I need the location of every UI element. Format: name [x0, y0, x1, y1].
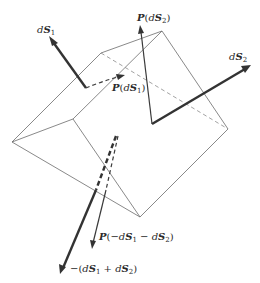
- neg-sum-shaft: [63, 190, 96, 268]
- label-P-neg-sum: P(−dS1 − dS2): [98, 231, 174, 244]
- label-neg-sum: −(dS1 + dS2): [70, 263, 137, 276]
- arrowhead-icon: [116, 74, 125, 80]
- edge-left-bottom: [12, 142, 140, 217]
- dS2-shaft: [152, 69, 245, 124]
- prism-vector-diagram: dS1 P(dS1) P(dS2) dS2 P(−dS1 − dS2) −(dS…: [0, 0, 260, 283]
- edge-top-right: [162, 31, 228, 129]
- label-dS1: dS1: [37, 24, 55, 37]
- vector-P-dS2: [138, 25, 152, 124]
- dS1-shaft: [53, 42, 86, 88]
- edge-back-left: [12, 53, 101, 142]
- arrowhead-icon: [138, 25, 144, 34]
- prism-edges: [12, 31, 228, 217]
- label-P-dS1: P(dS1): [111, 82, 146, 95]
- neg-sum-hidden: [96, 136, 116, 190]
- edge-bottom-right: [140, 129, 228, 217]
- label-P-dS2: P(dS2): [136, 12, 171, 25]
- vector-neg-sum: [59, 136, 116, 274]
- arrowhead-icon: [49, 36, 58, 46]
- vector-dS2: [152, 65, 251, 124]
- vector-dS1: [49, 36, 86, 88]
- edge-inner-bottom: [73, 119, 140, 217]
- edge-back-top: [101, 31, 162, 53]
- arrowhead-icon: [90, 240, 96, 249]
- edge-left-inner: [12, 119, 73, 142]
- label-dS2: dS2: [229, 51, 247, 64]
